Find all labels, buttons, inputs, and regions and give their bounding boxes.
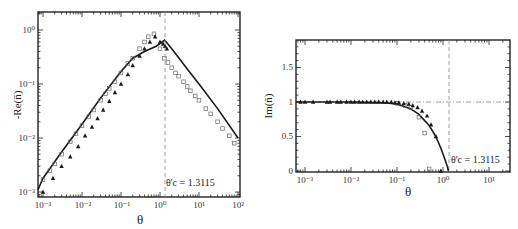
solid-curve — [38, 40, 238, 190]
left-data-series — [38, 32, 238, 194]
open-square-marker — [185, 85, 189, 89]
left-xtick-label: 10² — [232, 200, 244, 210]
filled-triangle-marker — [148, 40, 152, 44]
open-square-marker — [197, 98, 201, 102]
filled-triangle-marker — [68, 154, 72, 158]
right-ytick-label: 1 — [289, 97, 294, 107]
left-ytick-label: 10⁻² — [19, 133, 36, 143]
right-x-axis-title: θ — [405, 184, 411, 199]
left-plot-frame — [38, 12, 240, 197]
filled-triangle-marker — [142, 46, 146, 50]
filled-triangle-marker — [119, 82, 123, 86]
right-chart: θ'c = 1.3115 10⁻³ 10⁻² 10⁻¹ 10⁰ 10¹ 1.5 … — [262, 40, 510, 199]
left-critical-theta-annotation: θ'c = 1.3115 — [166, 177, 215, 188]
solid-curve — [296, 102, 448, 171]
filled-triangle-marker — [131, 63, 135, 67]
filled-triangle-marker — [107, 99, 111, 103]
left-x-axis-title: θ — [137, 212, 143, 227]
filled-triangle-marker — [420, 109, 424, 113]
left-ytick-label: 10⁻³ — [19, 187, 36, 197]
right-critical-theta-annotation: θ'c = 1.3115 — [451, 154, 500, 165]
right-xtick-label: 10¹ — [483, 175, 495, 185]
filled-triangle-marker — [83, 133, 87, 137]
left-ytick-label: 10⁰ — [22, 25, 35, 35]
filled-triangle-marker — [402, 101, 406, 105]
open-square-marker — [170, 66, 174, 70]
open-square-marker — [221, 127, 225, 131]
left-xtick-label: 10⁰ — [154, 200, 167, 210]
filled-triangle-marker — [101, 108, 105, 112]
open-square-marker — [166, 61, 170, 65]
open-square-marker — [163, 56, 167, 60]
left-ytick-label: 10⁻¹ — [19, 79, 36, 89]
left-xtick-label: 10⁻² — [75, 200, 92, 210]
right-y-axis-title: Im(n̄) — [262, 93, 275, 118]
right-xtick-label: 10⁰ — [437, 175, 450, 185]
filled-triangle-marker — [51, 176, 55, 180]
left-xtick-label: 10⁻³ — [35, 200, 52, 210]
left-axis-ticks — [38, 12, 240, 197]
open-square-marker — [138, 47, 142, 51]
filled-triangle-marker — [411, 103, 415, 107]
open-square-marker — [228, 134, 232, 138]
left-xtick-label: 10⁻¹ — [114, 200, 131, 210]
filled-triangle-marker — [95, 116, 99, 120]
left-chart: θ'c = 1.3115 10⁻³ 10⁻² 10⁻¹ 10⁰ 10¹ 10² … — [11, 12, 244, 227]
open-square-marker — [182, 80, 186, 84]
filled-triangle-marker — [59, 164, 63, 168]
figure: θ'c = 1.3115 10⁻³ 10⁻² 10⁻¹ 10⁰ 10¹ 10² … — [0, 0, 518, 229]
right-xtick-label: 10⁻¹ — [389, 175, 406, 185]
filled-triangle-marker — [415, 105, 419, 109]
open-square-marker — [193, 94, 197, 98]
left-y-axis-title: -Re(n̄) — [11, 90, 24, 119]
open-square-marker — [232, 141, 236, 145]
open-square-marker — [158, 47, 162, 51]
filled-triangle-marker — [90, 125, 94, 129]
open-square-marker — [216, 120, 220, 124]
filled-triangle-marker — [76, 144, 80, 148]
open-square-marker — [209, 112, 213, 116]
open-square-marker — [143, 40, 147, 44]
open-square-marker — [423, 131, 427, 135]
filled-triangle-marker — [381, 100, 385, 104]
right-xtick-label: 10⁻² — [343, 175, 360, 185]
right-xtick-label: 10⁻³ — [297, 175, 314, 185]
left-xtick-label: 10¹ — [193, 200, 205, 210]
open-square-marker — [146, 35, 150, 39]
right-ytick-label: 1.5 — [282, 62, 294, 72]
filled-triangle-marker — [153, 34, 157, 38]
filled-triangle-marker — [439, 169, 443, 173]
right-ytick-label: 0 — [289, 166, 294, 176]
filled-triangle-marker — [113, 90, 117, 94]
right-data-series — [296, 100, 448, 173]
open-square-marker — [189, 89, 193, 93]
filled-triangle-marker — [126, 72, 130, 76]
filled-triangle-marker — [429, 122, 433, 126]
filled-triangle-marker — [425, 113, 429, 117]
open-square-marker — [204, 107, 208, 111]
right-ytick-label: 0.5 — [282, 131, 294, 141]
